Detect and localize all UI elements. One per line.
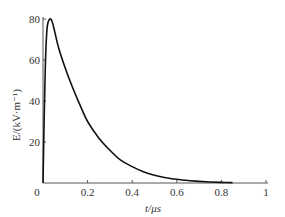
x-tick-label: 0.8 [215,186,229,198]
x-axis-title: t/μs [145,202,161,214]
x-tick-label: 0.6 [170,186,184,198]
data-line [43,19,233,183]
chart: 0.20.40.60.81 20406080 0 t/μs E/(kV·m⁻¹) [0,0,285,217]
y-tick-label: 20 [29,136,41,148]
x-origin-label: 0 [34,186,40,198]
x-tick-label: 1 [263,186,269,198]
y-tick-label: 40 [29,95,41,107]
axes [43,17,268,183]
y-axis-title: E/(kV·m⁻¹) [10,89,23,141]
x-tick-label: 0.4 [125,186,139,198]
y-tick-label: 60 [29,54,41,66]
x-tick-label: 0.2 [81,186,95,198]
y-tick-label: 80 [29,13,41,25]
